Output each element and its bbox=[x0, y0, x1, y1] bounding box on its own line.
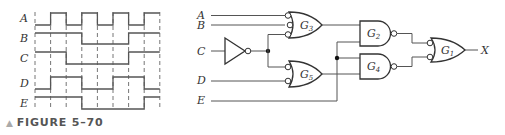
g3-input-bubble bbox=[285, 13, 291, 19]
input-label-e: E bbox=[196, 94, 205, 107]
wire-g4-to-g1 bbox=[397, 57, 427, 67]
caption-triangle-icon: ▲ bbox=[6, 118, 14, 128]
wire-g2-to-g1 bbox=[397, 34, 427, 44]
g1-input-bubble bbox=[427, 54, 433, 60]
wire-e-to-g2 bbox=[337, 42, 360, 101]
wire-c-to-g3 bbox=[268, 35, 285, 52]
waveform-label-a: A bbox=[19, 12, 28, 25]
inverter-bubble bbox=[245, 48, 251, 54]
gate-g1: G1 bbox=[427, 38, 465, 62]
waveform-label-d: D bbox=[19, 77, 29, 90]
gate-g2: G2 bbox=[360, 21, 397, 46]
g1-input-bubble bbox=[427, 40, 433, 46]
input-label-c: C bbox=[197, 45, 206, 58]
caption-text: FIGURE 5–70 bbox=[17, 116, 104, 129]
waveform-a bbox=[35, 13, 160, 25]
timing-diagram: A B C D E bbox=[19, 12, 160, 110]
gate-g5: G5 bbox=[285, 61, 322, 87]
waveform-label-e: E bbox=[19, 97, 28, 110]
output-label-x: X bbox=[480, 44, 490, 57]
wire-c-to-g5 bbox=[268, 51, 285, 67]
gate-g3: G3 bbox=[285, 12, 322, 38]
g2-output-bubble bbox=[391, 31, 397, 37]
figure-canvas: A B C D E A B C D E bbox=[0, 0, 505, 135]
g3-input-bubble bbox=[287, 22, 293, 28]
time-markers bbox=[35, 12, 160, 110]
figure-caption: ▲FIGURE 5–70 bbox=[6, 116, 103, 129]
gate-g4: G4 bbox=[360, 54, 397, 79]
logic-circuit: A B C D E G3 G5 bbox=[196, 9, 490, 107]
input-label-b: B bbox=[196, 19, 205, 32]
waveform-label-b: B bbox=[19, 32, 28, 45]
g5-input-bubble bbox=[285, 64, 291, 70]
inverter-gate bbox=[225, 38, 245, 64]
waveform-label-c: C bbox=[20, 52, 29, 65]
g3-input-bubble bbox=[285, 32, 291, 38]
g4-output-bubble bbox=[391, 64, 397, 70]
g5-input-bubble bbox=[285, 78, 291, 84]
input-label-d: D bbox=[196, 74, 206, 87]
junction-e bbox=[335, 56, 339, 60]
